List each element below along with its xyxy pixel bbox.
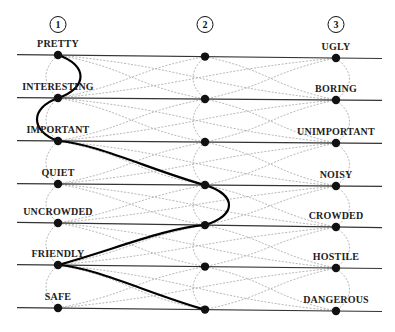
dashed-connection — [205, 143, 336, 185]
node-dot — [201, 52, 209, 60]
dashed-connection — [205, 142, 336, 186]
right-attribute-label: DANGEROUS — [303, 294, 369, 305]
dashed-connection — [193, 99, 205, 142]
node-dot — [201, 138, 209, 146]
dashed-connection — [58, 186, 336, 223]
right-attribute-label: HOSTILE — [313, 251, 359, 262]
left-attribute-label: SAFE — [45, 291, 71, 302]
node-dot — [201, 305, 209, 313]
dashed-connection — [46, 184, 58, 223]
left-attribute-label: QUIET — [41, 167, 74, 178]
dashed-connection — [58, 58, 336, 98]
node-dot — [54, 304, 62, 312]
node-dot — [332, 182, 340, 190]
node-dot — [54, 137, 62, 145]
column-number-badge: 3 — [328, 16, 345, 33]
node-dot — [201, 262, 209, 270]
node-dot — [332, 139, 340, 147]
node-dot — [201, 221, 209, 229]
dashed-connection — [58, 184, 336, 227]
left-attribute-label: FRIENDLY — [32, 248, 85, 259]
dashed-connection — [58, 223, 336, 268]
dashed-connection — [58, 184, 205, 225]
node-dot — [201, 181, 209, 189]
right-attribute-label: UGLY — [322, 41, 351, 52]
node-dot — [332, 96, 340, 104]
left-attribute-label: IMPORTANT — [27, 124, 90, 135]
node-dot — [332, 264, 340, 272]
node-dot — [54, 219, 62, 227]
left-attribute-label: INTERESTING — [22, 81, 94, 92]
node-dot — [54, 94, 62, 102]
column-number-badge: 1 — [50, 16, 67, 33]
node-dot — [54, 180, 62, 188]
column-number-badge: 2 — [197, 16, 214, 33]
node-dot — [54, 51, 62, 59]
right-attribute-label: BORING — [315, 83, 357, 94]
node-dot — [332, 223, 340, 231]
dashed-connection — [58, 98, 205, 142]
dashed-connection — [58, 100, 336, 141]
left-attribute-label: PRETTY — [37, 38, 79, 49]
node-dot — [54, 261, 62, 269]
dashed-connection — [193, 267, 205, 310]
dashed-connection — [193, 142, 205, 185]
dashed-connection — [58, 185, 205, 223]
node-dot — [201, 95, 209, 103]
right-attribute-label: UNIMPORTANT — [297, 126, 375, 137]
node-dot — [332, 54, 340, 62]
right-attribute-label: CROWDED — [309, 210, 364, 221]
left-attribute-label: UNCROWDED — [23, 206, 93, 217]
node-dot — [332, 307, 340, 315]
right-attribute-label: NOISY — [320, 169, 353, 180]
